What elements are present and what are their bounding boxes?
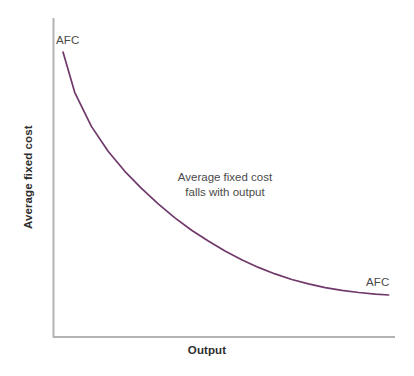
curve-annotation-line-2: falls with output bbox=[185, 186, 264, 198]
y-axis-title: Average fixed cost bbox=[21, 87, 35, 267]
afc-label-top: AFC bbox=[56, 33, 80, 47]
afc-chart-figure: AFC Average fixed cost falls with output… bbox=[0, 0, 414, 376]
afc-label-bottom: AFC bbox=[366, 275, 390, 289]
curve-annotation-line-1: Average fixed cost bbox=[178, 171, 272, 183]
curve-annotation-text: Average fixed cost falls with output bbox=[173, 170, 277, 200]
x-axis-title: Output bbox=[0, 343, 414, 357]
